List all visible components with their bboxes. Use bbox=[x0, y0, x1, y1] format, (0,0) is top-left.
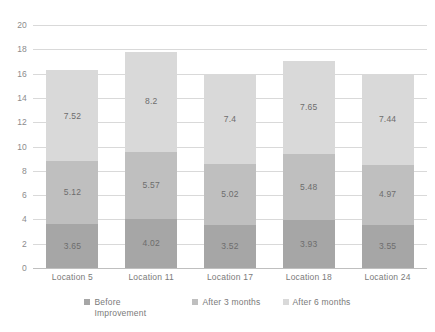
bar-value-label: 7.44 bbox=[379, 115, 396, 124]
legend-swatch-icon bbox=[192, 299, 198, 305]
bars-layer: 3.655.127.524.025.578.23.525.027.43.935.… bbox=[33, 25, 427, 268]
bar-segment[interactable]: 7.52 bbox=[46, 70, 98, 161]
bar-value-label: 4.02 bbox=[143, 239, 160, 248]
bar-segment[interactable]: 7.65 bbox=[283, 61, 335, 154]
bar-value-label: 5.57 bbox=[143, 181, 160, 190]
bar-stack[interactable]: 3.655.127.52 bbox=[46, 70, 98, 268]
bar-segment[interactable]: 3.93 bbox=[283, 220, 335, 268]
chart-legend: Before ImprovementAfter 3 monthsAfter 6 … bbox=[0, 297, 435, 318]
y-tick-label: 2 bbox=[22, 239, 27, 249]
bar-group: 3.525.027.4 bbox=[191, 25, 270, 268]
legend-label: After 6 months bbox=[293, 297, 351, 308]
bar-value-label: 3.52 bbox=[221, 242, 238, 251]
bar-stack[interactable]: 3.935.487.65 bbox=[283, 61, 335, 268]
x-axis-label: Location 5 bbox=[33, 272, 112, 282]
legend-label: Before Improvement bbox=[94, 297, 170, 318]
bar-group: 3.554.977.44 bbox=[348, 25, 427, 268]
x-axis-labels: Location 5Location 11Location 17Location… bbox=[33, 272, 427, 282]
legend-label: After 3 months bbox=[202, 297, 260, 308]
y-tick-label: 6 bbox=[22, 190, 27, 200]
x-axis-label: Location 11 bbox=[112, 272, 191, 282]
bar-value-label: 7.65 bbox=[300, 103, 317, 112]
legend-item[interactable]: After 6 months bbox=[283, 297, 351, 308]
y-tick-label: 16 bbox=[17, 69, 27, 79]
bar-segment[interactable]: 8.2 bbox=[125, 52, 177, 152]
bar-value-label: 7.4 bbox=[224, 115, 236, 124]
bar-value-label: 5.12 bbox=[64, 188, 81, 197]
y-tick-label: 10 bbox=[17, 142, 27, 152]
legend-swatch-icon bbox=[84, 299, 90, 305]
x-axis-label: Location 18 bbox=[269, 272, 348, 282]
legend-item[interactable]: After 3 months bbox=[192, 297, 260, 308]
bar-group: 3.935.487.65 bbox=[269, 25, 348, 268]
bar-segment[interactable]: 5.48 bbox=[283, 154, 335, 221]
bar-value-label: 3.65 bbox=[64, 242, 81, 251]
bar-segment[interactable]: 4.97 bbox=[362, 165, 414, 225]
y-tick-label: 12 bbox=[17, 117, 27, 127]
bar-stack[interactable]: 4.025.578.2 bbox=[125, 52, 177, 268]
axis-baseline: 0 bbox=[33, 268, 427, 269]
bar-segment[interactable]: 5.57 bbox=[125, 152, 177, 220]
bar-segment[interactable]: 3.65 bbox=[46, 224, 98, 268]
bar-value-label: 5.02 bbox=[221, 190, 238, 199]
bar-segment[interactable]: 7.44 bbox=[362, 74, 414, 164]
bar-value-label: 3.93 bbox=[300, 240, 317, 249]
bar-segment[interactable]: 3.52 bbox=[204, 225, 256, 268]
legend-item[interactable]: Before Improvement bbox=[84, 297, 170, 318]
legend-swatch-icon bbox=[283, 299, 289, 305]
bar-segment[interactable]: 5.02 bbox=[204, 164, 256, 225]
x-axis-label: Location 17 bbox=[191, 272, 270, 282]
y-tick-label: 20 bbox=[17, 20, 27, 30]
y-tick-label: 8 bbox=[22, 166, 27, 176]
bar-stack[interactable]: 3.554.977.44 bbox=[362, 74, 414, 268]
x-axis-label: Location 24 bbox=[348, 272, 427, 282]
bar-segment[interactable]: 7.4 bbox=[204, 74, 256, 164]
bar-group: 3.655.127.52 bbox=[33, 25, 112, 268]
bar-segment[interactable]: 4.02 bbox=[125, 219, 177, 268]
bar-segment[interactable]: 3.55 bbox=[362, 225, 414, 268]
plot-area: 02468101214161820 3.655.127.524.025.578.… bbox=[33, 25, 427, 268]
stacked-bar-chart: 02468101214161820 3.655.127.524.025.578.… bbox=[0, 0, 435, 332]
bar-group: 4.025.578.2 bbox=[112, 25, 191, 268]
bar-value-label: 4.97 bbox=[379, 190, 396, 199]
bar-stack[interactable]: 3.525.027.4 bbox=[204, 74, 256, 268]
y-tick-label: 14 bbox=[17, 93, 27, 103]
bar-value-label: 7.52 bbox=[64, 112, 81, 121]
bar-value-label: 3.55 bbox=[379, 242, 396, 251]
y-tick-label: 4 bbox=[22, 214, 27, 224]
bar-value-label: 5.48 bbox=[300, 183, 317, 192]
bar-value-label: 8.2 bbox=[145, 97, 157, 106]
bar-segment[interactable]: 5.12 bbox=[46, 161, 98, 223]
y-tick-label: 18 bbox=[17, 44, 27, 54]
y-tick-label: 0 bbox=[22, 263, 27, 273]
